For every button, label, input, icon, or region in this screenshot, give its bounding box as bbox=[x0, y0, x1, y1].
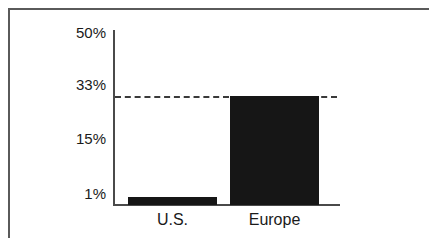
bar-europe bbox=[230, 96, 319, 205]
y-axis-line bbox=[113, 30, 115, 206]
y-tick-label-15: 15% bbox=[76, 131, 106, 146]
x-tick-label-us: U.S. bbox=[128, 212, 217, 228]
y-tick-label-50: 50% bbox=[76, 25, 106, 40]
y-tick-label-1: 1% bbox=[84, 186, 106, 201]
bar-us bbox=[128, 197, 217, 205]
y-tick-label-33: 33% bbox=[76, 77, 106, 92]
figure-frame: 50% 33% 15% 1% U.S. Europe bbox=[0, 0, 429, 238]
bar-chart-plot-area: 50% 33% 15% 1% U.S. Europe bbox=[0, 0, 429, 238]
x-tick-label-europe: Europe bbox=[230, 212, 319, 228]
